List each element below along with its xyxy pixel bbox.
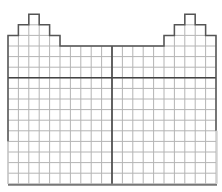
grid-diagram	[0, 0, 222, 192]
grid-canvas	[0, 0, 222, 192]
